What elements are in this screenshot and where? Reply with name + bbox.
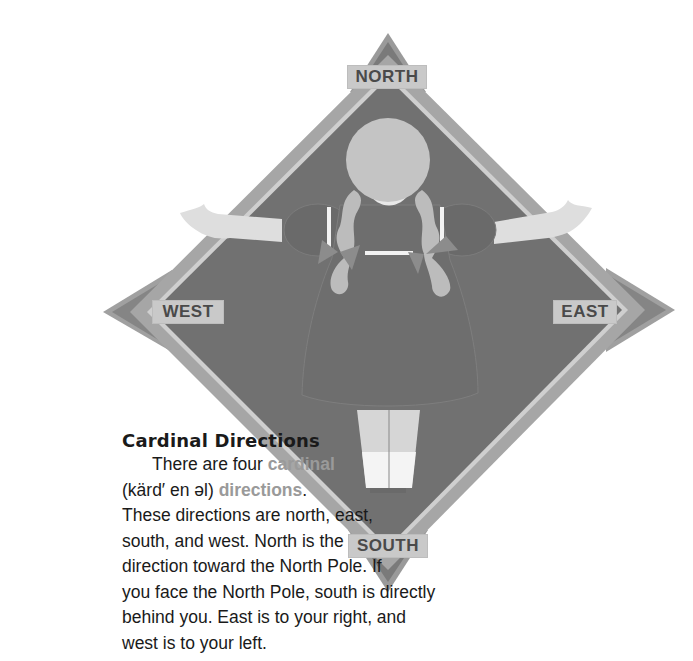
lesson-line-6: you face the North Pole, south is direct…	[122, 580, 562, 606]
lesson-line-4: south, and west. North is the	[122, 529, 562, 555]
lesson-line-5: direction toward the North Pole. If	[122, 554, 562, 580]
head	[346, 118, 430, 202]
lesson-line-3: These directions are north, east,	[122, 503, 562, 529]
lesson-line-1: There are four cardinal	[122, 452, 562, 478]
lesson-line-2: (kärd′ en əl) directions.	[122, 478, 562, 504]
keyword-cardinal: cardinal	[268, 454, 335, 474]
line1-prefix: There are four	[152, 454, 268, 474]
east-label: EAST	[553, 300, 617, 324]
west-label: WEST	[152, 300, 224, 324]
pronunciation: (kärd′ en əl)	[122, 480, 219, 500]
lesson-line-8: west is to your left.	[122, 631, 562, 657]
keyword-directions: directions	[219, 480, 303, 500]
lesson-text: Cardinal Directions There are four cardi…	[122, 430, 562, 656]
line2-suffix: .	[302, 480, 307, 500]
lesson-heading: Cardinal Directions	[122, 430, 562, 452]
north-label: NORTH	[347, 65, 427, 89]
lesson-line-7: behind you. East is to your right, and	[122, 605, 562, 631]
